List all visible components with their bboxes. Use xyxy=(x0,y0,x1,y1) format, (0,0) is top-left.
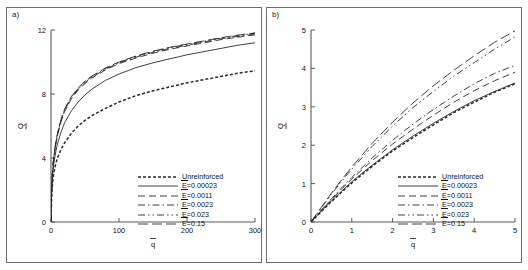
legend-line-sample xyxy=(397,200,439,209)
svg-text:4: 4 xyxy=(302,64,306,73)
svg-text:0: 0 xyxy=(49,226,53,235)
legend-item: E=0.15 xyxy=(397,219,515,228)
panel-a-legend: UnreinforcedE=0.00023E=0.0011E=0.0023E=0… xyxy=(137,172,255,228)
legend-item: E=0.0023 xyxy=(137,200,255,209)
legend-line-sample xyxy=(397,172,439,181)
figure-container: a) 010020030004812qQ UnreinforcedE=0.000… xyxy=(0,0,528,270)
legend-item: E=0.00023 xyxy=(397,181,515,190)
panel-b-legend: UnreinforcedE=0.00023E=0.0011E=0.0023E=0… xyxy=(397,172,515,228)
svg-text:0: 0 xyxy=(302,218,306,227)
legend-line-sample xyxy=(137,191,179,200)
legend-line-sample xyxy=(137,172,179,181)
svg-text:12: 12 xyxy=(38,26,46,35)
legend-line-sample xyxy=(137,181,179,190)
legend-label: E=0.15 xyxy=(442,219,465,228)
legend-line-sample xyxy=(397,181,439,190)
legend-line-sample xyxy=(397,210,439,219)
svg-text:8: 8 xyxy=(42,90,46,99)
svg-text:q: q xyxy=(411,240,415,249)
legend-item: E=0.023 xyxy=(397,210,515,219)
svg-text:q: q xyxy=(151,240,155,249)
svg-text:Q: Q xyxy=(276,123,285,129)
legend-line-sample xyxy=(137,200,179,209)
legend-line-sample xyxy=(137,210,179,219)
svg-text:100: 100 xyxy=(113,226,126,235)
svg-text:2: 2 xyxy=(391,226,395,235)
svg-text:1: 1 xyxy=(302,180,306,189)
svg-text:2: 2 xyxy=(302,141,306,150)
legend-label: E=0.15 xyxy=(182,219,205,228)
svg-text:1: 1 xyxy=(350,226,354,235)
legend-line-sample xyxy=(137,219,179,228)
legend-item: E=0.0011 xyxy=(397,191,515,200)
legend-label: Unreinforced xyxy=(182,172,223,181)
svg-text:Q: Q xyxy=(16,123,25,129)
legend-label: Unreinforced xyxy=(442,172,483,181)
svg-text:0: 0 xyxy=(42,218,46,227)
legend-item: E=0.15 xyxy=(137,219,255,228)
legend-item: Unreinforced xyxy=(397,172,515,181)
svg-text:3: 3 xyxy=(302,103,306,112)
legend-item: E=0.0011 xyxy=(137,191,255,200)
legend-item: E=0.00023 xyxy=(137,181,255,190)
svg-text:5: 5 xyxy=(302,26,306,35)
legend-line-sample xyxy=(397,191,439,200)
svg-text:0: 0 xyxy=(309,226,313,235)
panel-a: a) 010020030004812qQ UnreinforcedE=0.000… xyxy=(6,7,262,263)
legend-item: E=0.023 xyxy=(137,210,255,219)
legend-line-sample xyxy=(397,219,439,228)
legend-item: Unreinforced xyxy=(137,172,255,181)
panel-b: b) 012345012345qQ UnreinforcedE=0.00023E… xyxy=(266,7,522,263)
svg-text:4: 4 xyxy=(42,154,46,163)
legend-item: E=0.0023 xyxy=(397,200,515,209)
